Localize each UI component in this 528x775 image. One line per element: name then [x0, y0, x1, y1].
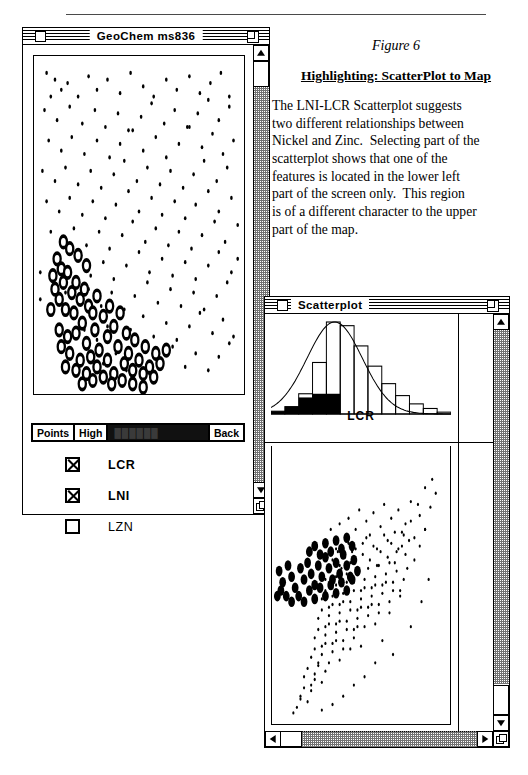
map-highlighted-point	[70, 307, 77, 318]
map-point	[224, 240, 227, 244]
map-point	[217, 250, 220, 254]
scroll-thumb[interactable]	[253, 61, 269, 87]
legend-row-lcr[interactable]: LCR	[31, 449, 245, 480]
map-plot-area[interactable]	[33, 55, 245, 395]
scatter-highlighted-point	[308, 569, 315, 580]
map-point	[161, 257, 164, 261]
scroll-track[interactable]	[280, 731, 478, 747]
map-point	[127, 128, 130, 132]
map-point	[228, 341, 231, 345]
map-point	[121, 233, 124, 237]
scatter-point	[396, 550, 398, 553]
legend-row-lzn[interactable]: LZN	[31, 511, 245, 542]
scatter-point	[353, 628, 355, 631]
map-highlighted-point	[72, 327, 79, 338]
map-point	[148, 270, 151, 274]
map-point	[89, 274, 92, 278]
map-point	[89, 169, 92, 173]
map-point	[165, 78, 168, 82]
legend-label-lni: LNI	[108, 489, 130, 503]
control-selected-field[interactable]: ██████	[108, 425, 209, 440]
map-window-titlebar[interactable]: GeoChem ms836	[23, 28, 269, 45]
map-point	[217, 355, 220, 359]
scatter-point	[381, 592, 383, 595]
scroll-down-arrow-icon[interactable]	[493, 715, 509, 731]
lcr-histogram-area[interactable]: LCR	[271, 318, 451, 422]
scatter-highlighted-point	[333, 588, 340, 599]
legend-row-lni[interactable]: LNI	[31, 480, 245, 511]
scatter-point	[339, 658, 341, 661]
scatterplot-horizontal-scrollbar[interactable]	[265, 731, 493, 747]
zoom-box-icon[interactable]	[487, 300, 499, 312]
map-point	[215, 294, 218, 298]
close-box-icon[interactable]	[35, 31, 46, 42]
scatter-point	[378, 611, 380, 614]
scatter-highlighted-point	[354, 566, 361, 577]
scatter-point	[374, 583, 376, 586]
map-point	[123, 159, 126, 163]
map-window-body: Points High ██████ Back LCR LNI LZN	[23, 45, 253, 514]
map-point	[96, 88, 99, 92]
scatter-point	[314, 678, 316, 681]
scatter-point	[410, 519, 412, 522]
zoom-box-icon[interactable]	[247, 31, 259, 43]
checkbox-lcr[interactable]	[65, 457, 80, 472]
map-point	[49, 94, 52, 98]
scatter-point	[369, 533, 371, 536]
map-highlighted-point	[129, 378, 136, 389]
scatterplot-window[interactable]: Scatterplot LCR	[264, 296, 510, 748]
map-point	[194, 277, 197, 281]
map-highlighted-point	[119, 375, 126, 386]
map-highlighted-point	[83, 260, 90, 271]
scatterplot-vertical-scrollbar[interactable]	[493, 314, 509, 731]
scatter-point	[419, 514, 421, 517]
map-point	[60, 149, 63, 153]
lni-lcr-scatter-area[interactable]	[271, 446, 451, 725]
scatter-point	[310, 656, 312, 659]
map-point	[60, 88, 63, 92]
map-point	[100, 186, 103, 190]
scroll-track[interactable]	[493, 329, 509, 684]
control-back[interactable]: Back	[210, 425, 243, 440]
scatter-highlighted-point	[304, 557, 311, 568]
map-highlighted-point	[49, 270, 56, 281]
control-points[interactable]: Points	[33, 425, 75, 440]
map-highlighted-point	[150, 371, 157, 382]
map-control-strip[interactable]: Points High ██████ Back	[31, 423, 245, 442]
scatter-highlighted-point	[288, 596, 295, 607]
map-highlighted-point	[93, 290, 100, 301]
map-point	[209, 81, 212, 85]
map-point	[184, 260, 187, 264]
control-high[interactable]: High	[75, 425, 108, 440]
close-box-icon[interactable]	[277, 300, 288, 311]
scatter-point	[362, 542, 364, 545]
scroll-left-arrow-icon[interactable]	[265, 731, 281, 747]
map-highlighted-point	[81, 283, 88, 294]
scatter-point	[374, 622, 376, 625]
scatter-point	[331, 642, 333, 645]
scatter-point	[385, 581, 387, 584]
map-point	[207, 368, 210, 372]
scatter-point	[314, 636, 316, 639]
checkbox-lzn[interactable]	[65, 519, 80, 534]
scroll-thumb[interactable]	[493, 685, 509, 715]
map-point	[43, 108, 46, 112]
map-point	[236, 223, 239, 227]
scatter-point	[417, 503, 419, 506]
map-point	[228, 105, 231, 109]
scatter-highlighted-point	[285, 560, 292, 571]
geochem-map-window[interactable]: GeoChem ms836 Points High ██████ Back LC…	[22, 27, 270, 515]
scroll-thumb[interactable]	[280, 731, 302, 747]
scatter-point	[363, 675, 365, 678]
map-point	[39, 297, 42, 301]
map-point	[159, 182, 162, 186]
scroll-up-arrow-icon[interactable]	[253, 45, 269, 61]
map-point	[115, 203, 118, 207]
checkbox-lni[interactable]	[65, 488, 80, 503]
scatter-point	[388, 600, 390, 603]
grow-box-icon[interactable]	[493, 731, 509, 747]
scroll-up-arrow-icon[interactable]	[493, 314, 509, 330]
scroll-right-arrow-icon[interactable]	[477, 731, 493, 747]
scatter-point	[331, 703, 333, 706]
scatterplot-window-titlebar[interactable]: Scatterplot	[265, 297, 509, 314]
